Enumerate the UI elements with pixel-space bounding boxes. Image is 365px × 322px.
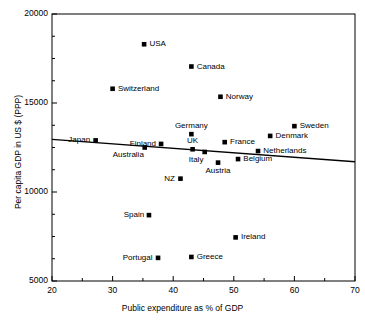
point-label: Australia xyxy=(113,150,144,159)
point-label: Switzerland xyxy=(118,84,159,93)
data-point-marker xyxy=(216,160,221,165)
y-axis-title: Per capita GDP in US $ (PPP) xyxy=(13,72,23,232)
x-axis-title: Public expenditure as % of GDP xyxy=(0,303,365,313)
data-point-marker xyxy=(142,42,147,47)
point-label: USA xyxy=(149,39,165,48)
point-label: Italy xyxy=(189,155,204,164)
x-tick-label: 40 xyxy=(158,285,188,295)
plot-canvas xyxy=(0,0,365,322)
point-label: Canada xyxy=(197,62,225,71)
data-point-marker xyxy=(189,255,194,260)
data-point-marker xyxy=(218,94,223,99)
data-point-marker xyxy=(189,64,194,69)
y-tick-label: 5000 xyxy=(6,275,48,285)
data-point-marker xyxy=(236,157,241,162)
point-label: Denmark xyxy=(275,131,307,140)
data-point-marker xyxy=(256,149,261,154)
point-label: NZ xyxy=(164,174,175,183)
x-tick-label: 60 xyxy=(279,285,309,295)
point-label: Sweden xyxy=(300,121,329,130)
point-label: Norway xyxy=(226,92,253,101)
data-point-marker xyxy=(159,142,164,147)
point-label: Portugal xyxy=(123,253,153,262)
y-tick-label: 20000 xyxy=(6,8,48,18)
axes xyxy=(52,14,355,281)
x-tick-label: 70 xyxy=(340,285,365,295)
axis-ticks xyxy=(52,14,355,281)
point-label: Ireland xyxy=(241,232,265,241)
point-label: Germany xyxy=(175,121,208,130)
data-point-marker xyxy=(190,147,195,152)
data-point-marker xyxy=(178,176,183,181)
x-tick-label: 20 xyxy=(37,285,67,295)
data-point-marker xyxy=(292,124,297,129)
point-label: Finland xyxy=(130,139,156,148)
point-label: Belgium xyxy=(243,154,272,163)
data-point-marker xyxy=(202,150,207,155)
data-point-marker xyxy=(222,140,227,145)
point-label: Austria xyxy=(206,166,231,175)
point-label: Japan xyxy=(68,135,90,144)
data-point-marker xyxy=(147,213,152,218)
data-point-marker xyxy=(156,256,161,261)
x-tick-label: 50 xyxy=(219,285,249,295)
data-point-marker xyxy=(268,134,273,139)
x-tick-label: 30 xyxy=(98,285,128,295)
point-label: Greece xyxy=(197,252,223,261)
data-point-marker xyxy=(110,86,115,91)
data-point-marker xyxy=(93,138,98,143)
point-label: France xyxy=(230,137,255,146)
point-label: UK xyxy=(187,136,198,145)
point-label: Spain xyxy=(124,210,144,219)
scatter-chart: 5000100001500020000203040506070 USACanad… xyxy=(0,0,365,322)
data-point-marker xyxy=(233,235,238,240)
